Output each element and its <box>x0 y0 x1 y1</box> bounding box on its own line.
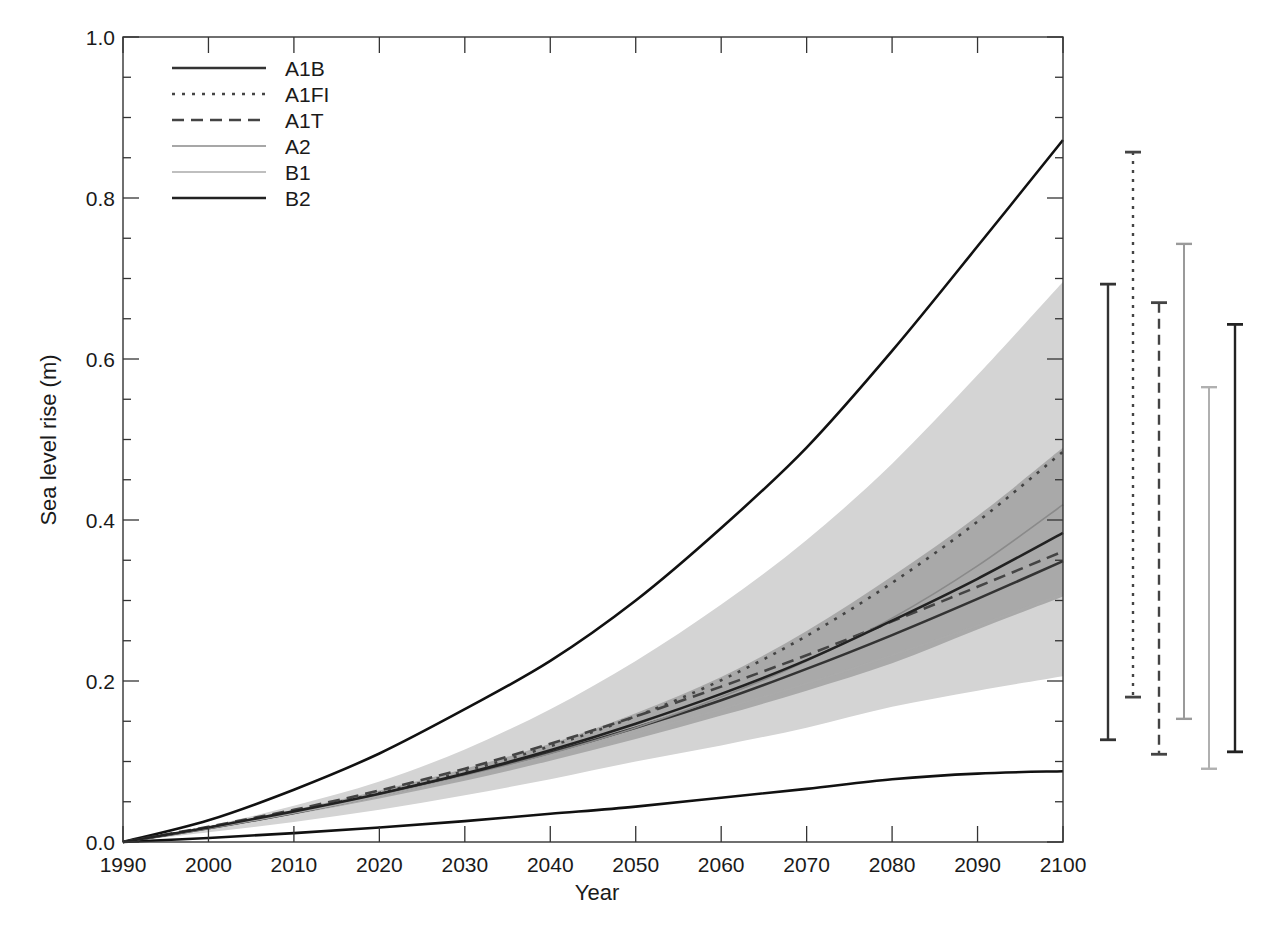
legend-item-a1fi: A1FI <box>172 83 329 106</box>
x-tick-label: 2040 <box>527 853 574 876</box>
range-bar-a2 <box>1176 244 1192 719</box>
legend-label: A1T <box>285 109 324 132</box>
x-tick-label: 2000 <box>185 853 232 876</box>
y-tick-label: 0.4 <box>86 509 116 532</box>
sea-level-chart: 1990200020102020203020402050206020702080… <box>0 0 1274 938</box>
legend-item-b2: B2 <box>172 187 311 210</box>
range-bar-a1b <box>1100 284 1116 740</box>
x-axis-title: Year <box>575 880 619 905</box>
range-bar-a1fi <box>1125 152 1141 697</box>
legend-item-a2: A2 <box>172 135 311 158</box>
y-axis-title: Sea level rise (m) <box>36 354 61 525</box>
x-tick-label: 2030 <box>441 853 488 876</box>
x-tick-label: 2070 <box>783 853 830 876</box>
legend-label: B2 <box>285 187 311 210</box>
y-tick-label: 0.2 <box>86 670 115 693</box>
lower-envelope-line <box>123 771 1063 842</box>
x-tick-label: 2100 <box>1040 853 1087 876</box>
x-tick-label: 1990 <box>100 853 147 876</box>
x-tick-label: 2050 <box>612 853 659 876</box>
x-tick-label: 2020 <box>356 853 403 876</box>
x-tick-label: 2090 <box>954 853 1001 876</box>
range-bars-2100 <box>1100 152 1243 769</box>
x-tick-label: 2010 <box>271 853 318 876</box>
legend-label: A1B <box>285 57 325 80</box>
range-bar-a1t <box>1151 303 1167 755</box>
y-tick-label: 0.6 <box>86 348 115 371</box>
legend-item-b1: B1 <box>172 161 311 184</box>
y-tick-label: 0.0 <box>86 831 115 854</box>
y-tick-label: 0.8 <box>86 187 115 210</box>
legend-label: A2 <box>285 135 311 158</box>
y-tick-label: 1.0 <box>86 26 115 49</box>
range-bar-b1 <box>1201 387 1217 769</box>
legend: A1BA1FIA1TA2B1B2 <box>172 57 329 210</box>
legend-label: A1FI <box>285 83 329 106</box>
legend-item-a1b: A1B <box>172 57 325 80</box>
uncertainty-bands <box>123 282 1063 842</box>
legend-label: B1 <box>285 161 311 184</box>
range-bar-b2 <box>1227 324 1243 751</box>
x-tick-label: 2080 <box>869 853 916 876</box>
x-tick-label: 2060 <box>698 853 745 876</box>
legend-item-a1t: A1T <box>172 109 324 132</box>
